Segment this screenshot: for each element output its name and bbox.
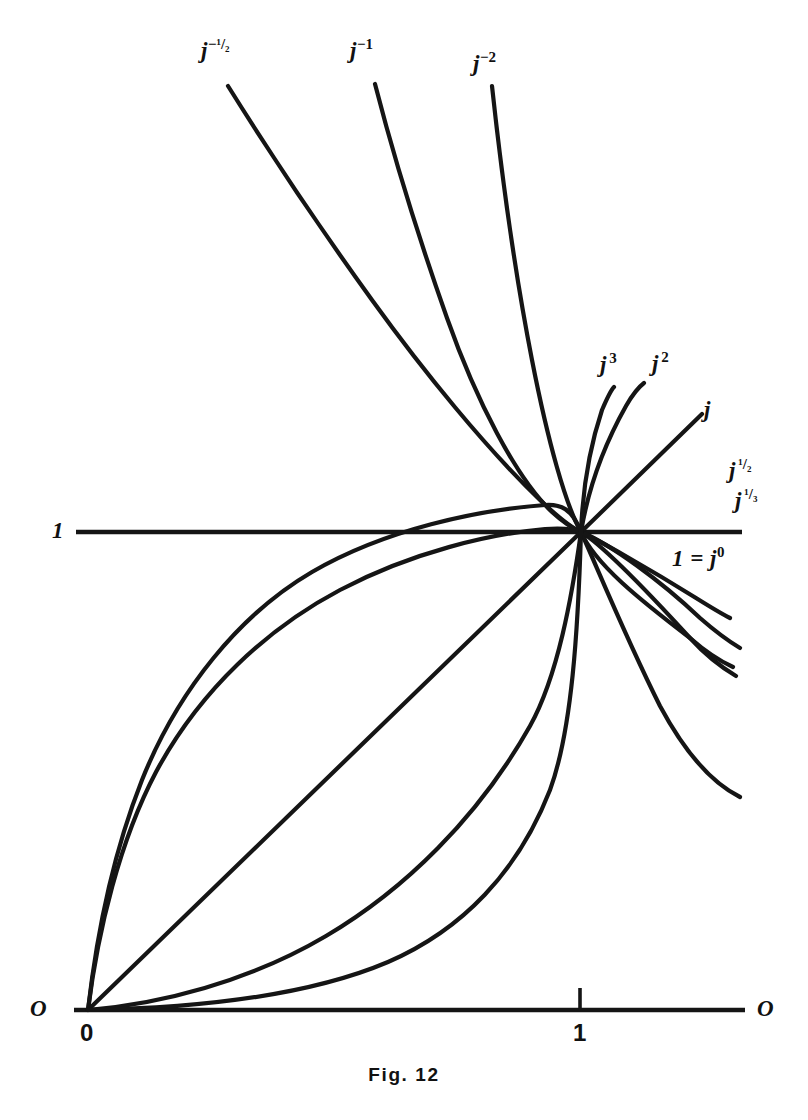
curve-label-j-neg-two: j−2 <box>473 50 496 75</box>
curve-j-cubed <box>88 387 614 1010</box>
curve-label-j-neg-half: j−¹/₂ <box>201 37 230 62</box>
baseline-identity-label: 1 = j0 <box>672 545 725 570</box>
x-tick-label-one: 1 <box>573 1021 586 1045</box>
curve-j-one-half <box>88 528 730 1010</box>
curve-label-j-neg-one: j−1 <box>350 37 373 62</box>
figure-container: j−¹/₂ j−1 j−2 j 3 j 2 j j ¹/₂ j ¹/₃ 1 = … <box>0 0 808 1120</box>
origin-label-left: O <box>30 997 47 1020</box>
curve-j-one <box>88 414 702 1010</box>
curve-label-j-one: j <box>704 396 711 421</box>
origin-label-right: O <box>757 997 774 1020</box>
curve-label-j-squared: j 2 <box>652 350 669 375</box>
y-axis-unit-label: 1 <box>52 519 64 542</box>
x-tick-label-zero: 0 <box>80 1021 93 1045</box>
curve-label-j-one-half: j ¹/₂ <box>729 457 751 482</box>
curve-label-j-cubed: j 3 <box>600 351 617 376</box>
curve-j-neg-two <box>492 86 740 797</box>
figure-caption: Fig. 12 <box>0 1064 808 1086</box>
curve-label-j-one-third: j ¹/₃ <box>735 487 757 512</box>
